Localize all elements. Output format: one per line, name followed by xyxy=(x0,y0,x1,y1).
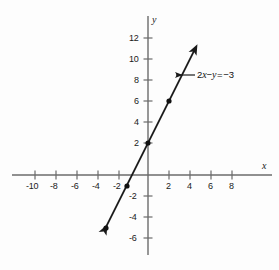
y-tick-label: 12 xyxy=(129,33,139,43)
x-tick-label: -4 xyxy=(92,181,100,191)
data-line xyxy=(105,49,195,229)
data-point xyxy=(166,98,171,103)
y-tick-label: 8 xyxy=(134,75,139,85)
data-point xyxy=(124,183,129,188)
y-tick-label: -4 xyxy=(129,212,137,222)
y-tick-label: -6 xyxy=(129,233,137,243)
x-tick-label: 4 xyxy=(187,181,192,191)
y-tick-label: -2 xyxy=(129,191,137,201)
data-point xyxy=(145,140,150,145)
x-tick-label: -8 xyxy=(50,181,58,191)
x-tick-label: -2 xyxy=(113,181,121,191)
x-tick-label: -6 xyxy=(71,181,79,191)
equation-rhs: −3 xyxy=(223,69,234,80)
y-tick-label: 2 xyxy=(134,138,139,148)
equation-annotation: 2x−y = −3 xyxy=(197,69,234,80)
data-point xyxy=(103,225,108,230)
y-tick-label: 4 xyxy=(134,117,139,127)
y-axis-label: y xyxy=(152,14,156,25)
x-axis-label: x xyxy=(262,160,266,171)
x-tick-label: 6 xyxy=(208,181,213,191)
x-tick-label: -10 xyxy=(26,181,38,191)
equation-variable-y: y xyxy=(212,69,216,80)
x-tick-label: 8 xyxy=(229,181,234,191)
y-tick-label: 6 xyxy=(134,96,139,106)
plot-area xyxy=(0,0,279,270)
equation-equals: = xyxy=(217,69,222,80)
graph-figure: -10 -8 -6 -4 -2 2 4 6 8 12 10 8 6 4 2 -2… xyxy=(0,0,279,270)
y-tick-label: 10 xyxy=(129,54,139,64)
x-tick-label: 2 xyxy=(166,181,171,191)
